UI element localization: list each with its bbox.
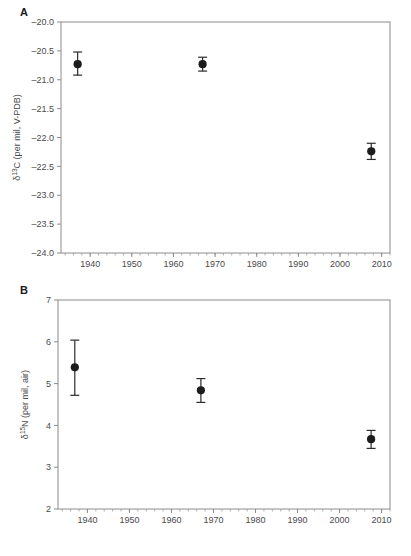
y-tick-label: 2 xyxy=(46,504,51,514)
data-point-3 xyxy=(367,430,376,448)
y-tick-label: –21.0 xyxy=(31,75,54,85)
y-tick-label: –20.5 xyxy=(31,46,54,56)
panel-a: A 19401950196019701980199020002010–24.0–… xyxy=(0,0,411,278)
y-tick-label: 7 xyxy=(46,295,51,305)
x-tick-label: 1970 xyxy=(205,259,225,269)
marker-circle xyxy=(367,147,375,155)
x-tick-label: 1940 xyxy=(80,259,100,269)
x-tick-label: 1990 xyxy=(288,259,308,269)
x-tick-label: 1970 xyxy=(203,515,223,525)
y-tick-label: –21.5 xyxy=(31,104,54,114)
marker-circle xyxy=(197,386,205,394)
panel-b-plot: 19401950196019701980199020002010234567δ1… xyxy=(0,278,411,556)
y-tick-label: –23.5 xyxy=(31,219,54,229)
y-tick-label: –22.0 xyxy=(31,133,54,143)
x-tick-label: 1980 xyxy=(247,259,267,269)
panel-b: B 19401950196019701980199020002010234567… xyxy=(0,278,411,556)
y-axis-title: δ15N (per mil, air) xyxy=(19,370,31,439)
x-tick-label: 1980 xyxy=(246,515,266,525)
x-tick-label: 1960 xyxy=(161,515,181,525)
y-tick-label: 6 xyxy=(46,337,51,347)
marker-circle xyxy=(367,435,375,443)
plot-frame xyxy=(61,22,390,253)
x-tick-label: 2000 xyxy=(330,259,350,269)
data-point-1 xyxy=(70,340,79,395)
y-tick-label: 4 xyxy=(46,421,51,431)
data-point-2 xyxy=(198,57,207,71)
x-tick-label: 2010 xyxy=(372,515,392,525)
y-tick-label: –24.0 xyxy=(31,248,54,258)
data-point-3 xyxy=(367,143,376,159)
x-tick-label: 2010 xyxy=(372,259,392,269)
plot-frame xyxy=(58,300,390,509)
x-tick-label: 1990 xyxy=(288,515,308,525)
y-tick-label: –20.0 xyxy=(31,17,54,27)
y-tick-label: 5 xyxy=(46,379,51,389)
y-axis-title: δ13C (per mil, V-PDB) xyxy=(11,94,23,180)
y-tick-label: –23.0 xyxy=(31,190,54,200)
data-point-2 xyxy=(196,379,205,403)
marker-circle xyxy=(74,60,82,68)
x-tick-label: 1940 xyxy=(77,515,97,525)
x-tick-label: 1950 xyxy=(122,259,142,269)
x-tick-label: 1950 xyxy=(119,515,139,525)
marker-circle xyxy=(71,363,79,371)
panel-a-plot: 19401950196019701980199020002010–24.0–23… xyxy=(0,0,411,278)
figure-container: A 19401950196019701980199020002010–24.0–… xyxy=(0,0,411,556)
marker-circle xyxy=(198,60,206,68)
x-tick-label: 1960 xyxy=(163,259,183,269)
x-tick-label: 2000 xyxy=(330,515,350,525)
y-tick-label: –22.5 xyxy=(31,162,54,172)
y-tick-label: 3 xyxy=(46,462,51,472)
data-point-1 xyxy=(73,52,82,75)
